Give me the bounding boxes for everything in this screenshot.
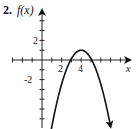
y-tick-label-neg2: -2 — [24, 74, 32, 85]
x-tick-label-2: 2 — [58, 63, 63, 74]
x-axis-label: x — [125, 63, 131, 74]
graph: 2 4 2 -2 x — [0, 0, 136, 129]
x-tick-label-4: 4 — [78, 63, 83, 74]
y-tick-label-2: 2 — [33, 35, 38, 46]
